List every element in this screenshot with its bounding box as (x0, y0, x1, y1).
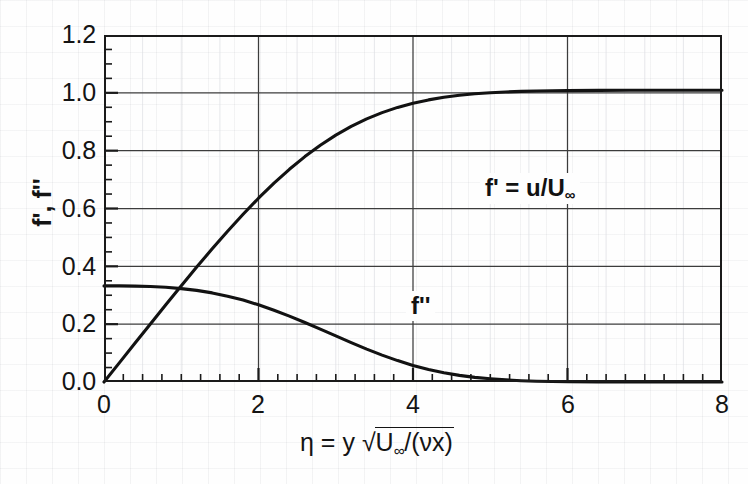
chart-figure: 1.2 1.0 0.8 0.6 0.4 0.2 0.0 0 2 4 6 8 f'… (0, 0, 748, 484)
eta-symbol: η (300, 428, 314, 456)
y-axis-title-text: f', f'' (28, 178, 56, 226)
x-tick-label: 2 (228, 392, 288, 417)
annotation-f-prime-lead: f' (485, 174, 499, 201)
y-variable: y (342, 428, 355, 456)
plot-frame (104, 35, 722, 382)
annotation-f-prime: f' = u/U∞ (480, 173, 580, 204)
annotation-f-prime-eq: = u/U (499, 174, 565, 201)
infinity-subscript: ∞ (394, 442, 405, 459)
u-infinity-symbol: U (376, 428, 394, 456)
x-axis-title: η = y √U∞/(νx) (300, 428, 454, 460)
plot-area: f' = u/U∞ f'' (104, 35, 722, 382)
denominator-text: /(νx) (404, 428, 453, 456)
radicand-group: U∞/(νx) (375, 427, 454, 456)
equals-symbol: = (321, 428, 336, 456)
x-tick-label: 0 (74, 392, 134, 417)
x-tick-label: 8 (692, 392, 748, 417)
radical-sign: √ (362, 428, 376, 456)
annotation-f-double-prime: f'' (406, 291, 435, 321)
y-axis-title: f', f'' (28, 143, 57, 263)
annotation-infinity-subscript: ∞ (565, 187, 575, 203)
x-tick-label: 4 (383, 392, 443, 417)
x-tick-label: 6 (538, 392, 598, 417)
